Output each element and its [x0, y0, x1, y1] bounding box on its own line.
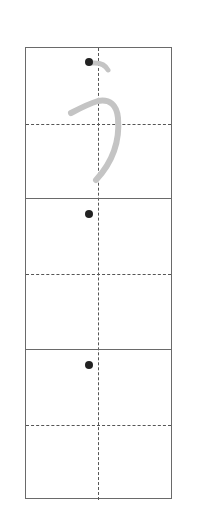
stroke-start-dot [85, 58, 93, 66]
stroke-start-dot [85, 210, 93, 218]
practice-grid [25, 47, 172, 499]
horizontal-guide-line [26, 425, 171, 426]
practice-cell-2 [26, 198, 171, 349]
horizontal-guide-line [26, 274, 171, 275]
stroke-start-dot [85, 361, 93, 369]
practice-cell-1 [26, 48, 171, 199]
model-character-u [26, 48, 173, 199]
practice-cell-3 [26, 349, 171, 500]
